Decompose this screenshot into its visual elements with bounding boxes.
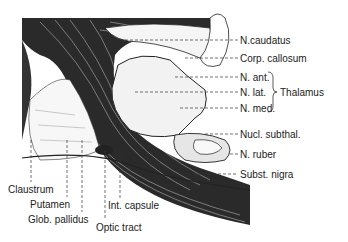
label-thalamus: Thalamus bbox=[280, 87, 324, 98]
label-glob-pallidus: Glob. pallidus bbox=[28, 214, 89, 225]
label-n-med: N. med. bbox=[240, 103, 275, 114]
label-corp-callosum: Corp. callosum bbox=[240, 53, 307, 64]
label-optic-tract: Optic tract bbox=[96, 222, 142, 233]
label-nucl-subthal: Nucl. subthal. bbox=[240, 129, 301, 140]
label-int-capsule: Int. capsule bbox=[108, 200, 159, 211]
label-n-ruber: N. ruber bbox=[240, 149, 276, 160]
label-n-ant: N. ant. bbox=[240, 72, 269, 83]
label-claustrum: Claustrum bbox=[8, 184, 54, 195]
label-n-lat: N. lat. bbox=[240, 87, 266, 98]
label-subst-nigra: Subst. nigra bbox=[240, 169, 293, 180]
brain-section-figure: N.caudatus Corp. callosum N. ant. N. lat… bbox=[0, 0, 348, 242]
label-n-caudatus: N.caudatus bbox=[240, 35, 291, 46]
label-putamen: Putamen bbox=[30, 199, 70, 210]
